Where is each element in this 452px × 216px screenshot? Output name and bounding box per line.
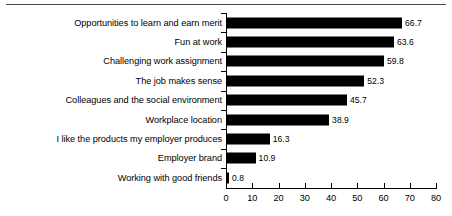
x-axis-tick — [357, 183, 358, 189]
plot-area: Opportunities to learn and earn merit66.… — [0, 0, 452, 216]
x-axis-tick — [252, 183, 253, 189]
x-axis-tick — [410, 183, 411, 189]
x-axis-tick — [331, 183, 332, 189]
x-axis-tick-label: 40 — [326, 193, 336, 203]
x-axis-tick — [305, 183, 306, 189]
x-axis-tick — [226, 183, 227, 189]
bar-chart: Opportunities to learn and earn merit66.… — [0, 0, 452, 216]
x-axis-tick-label: 0 — [223, 193, 228, 203]
x-axis-tick-label: 50 — [352, 193, 362, 203]
x-axis-tick-label: 80 — [431, 193, 441, 203]
x-axis-tick-label: 30 — [300, 193, 310, 203]
x-axis-tick — [436, 183, 437, 189]
x-axis-tick-label: 70 — [405, 193, 415, 203]
x-axis-tick — [279, 183, 280, 189]
x-axis-tick-label: 60 — [378, 193, 388, 203]
x-axis-tick-label: 20 — [273, 193, 283, 203]
x-axis-tick-label: 10 — [247, 193, 257, 203]
x-axis-tick — [384, 183, 385, 189]
x-axis-ticks: 01020304050607080 — [0, 0, 452, 216]
